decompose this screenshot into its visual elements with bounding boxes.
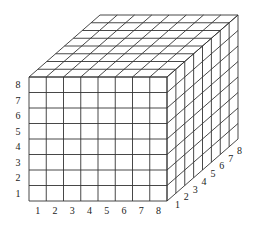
- cube-diagram: 12345678 12345678 12345678: [0, 0, 254, 233]
- horizontal-axis-label: 3: [70, 205, 75, 216]
- vertical-axis-label: 1: [16, 188, 21, 199]
- vertical-axis-label: 6: [16, 110, 21, 121]
- depth-axis-label: 6: [219, 160, 224, 171]
- cube-grid-drawing: 12345678 12345678 12345678: [0, 0, 254, 233]
- vertical-axis-label: 8: [16, 79, 21, 90]
- horizontal-axis-label: 2: [52, 205, 57, 216]
- horizontal-axis-label: 1: [35, 205, 40, 216]
- vertical-axis-label: 5: [16, 126, 21, 137]
- vertical-axis-label: 4: [16, 141, 21, 152]
- depth-axis-label: 4: [202, 176, 207, 187]
- horizontal-axis-labels: 12345678: [35, 205, 161, 216]
- depth-axis-label: 1: [175, 199, 180, 210]
- depth-axis-label: 2: [184, 191, 189, 202]
- horizontal-axis-label: 5: [104, 205, 109, 216]
- vertical-axis-label: 2: [16, 172, 21, 183]
- vertical-axis-labels: 12345678: [16, 79, 21, 199]
- horizontal-axis-label: 8: [156, 205, 161, 216]
- horizontal-axis-label: 7: [139, 205, 144, 216]
- vertical-axis-label: 3: [16, 157, 21, 168]
- depth-axis-label: 7: [228, 153, 233, 164]
- horizontal-axis-label: 4: [87, 205, 92, 216]
- horizontal-axis-label: 6: [121, 205, 126, 216]
- vertical-axis-label: 7: [16, 95, 21, 106]
- depth-axis-label: 8: [237, 145, 242, 156]
- depth-axis-label: 5: [210, 168, 215, 179]
- depth-axis-label: 3: [193, 184, 198, 195]
